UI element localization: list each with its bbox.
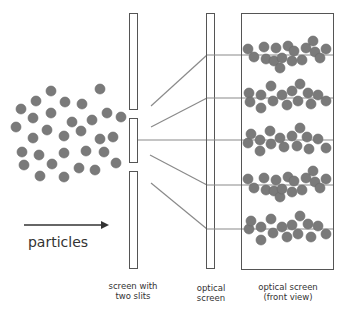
band-particle (268, 96, 278, 106)
band-particle (277, 90, 287, 100)
particle (111, 158, 121, 168)
particle (47, 159, 57, 169)
band-particle (277, 53, 287, 63)
band-particle (249, 183, 259, 193)
band-particle (287, 220, 297, 230)
band-particle (265, 126, 275, 136)
band-particle (306, 99, 316, 109)
band-particle (256, 235, 266, 245)
band-particle (279, 142, 289, 152)
band-particle (245, 97, 255, 107)
particle (11, 122, 21, 132)
band-particle (303, 88, 313, 98)
band-particle (277, 222, 287, 232)
band-particle (289, 46, 299, 56)
arrow-head-icon (101, 221, 109, 229)
band-particle (246, 216, 256, 226)
band-particle (282, 100, 292, 110)
particle (108, 132, 118, 142)
band-particle (259, 173, 269, 183)
band-particle (297, 55, 307, 65)
optical-screen-label-line1: optical (197, 283, 226, 293)
particle (60, 97, 70, 107)
band-particle (259, 42, 269, 52)
particle (67, 117, 77, 127)
band-particle (266, 139, 276, 149)
particle (95, 134, 105, 144)
particle (99, 147, 109, 157)
particle (59, 148, 69, 158)
band-particle (304, 144, 314, 154)
particle (102, 108, 112, 118)
particle (19, 160, 29, 170)
particle (31, 96, 41, 106)
band-particle (321, 143, 331, 153)
particle (28, 133, 38, 143)
band-particle (287, 131, 297, 141)
band-particle (321, 174, 331, 184)
front-view-label-line1: optical screen (258, 282, 318, 292)
path-4 (150, 155, 207, 185)
band-particle (295, 79, 305, 89)
band-particle (287, 187, 297, 197)
particles-label: particles (28, 234, 88, 250)
band-particle (243, 174, 253, 184)
band-particle (266, 214, 276, 224)
particle (76, 126, 86, 136)
band-particle (255, 146, 265, 156)
particle (81, 146, 91, 156)
particle (74, 163, 84, 173)
slit-screen-label-line2: two slits (115, 291, 151, 301)
band-particle (321, 96, 331, 106)
band-particle (313, 134, 323, 144)
band-particle (321, 229, 331, 239)
band-particle (275, 63, 285, 73)
band-particle (321, 44, 331, 54)
particle (59, 131, 69, 141)
path-1 (151, 55, 207, 106)
particle (116, 112, 126, 122)
band-particle (256, 222, 266, 232)
band-particle (277, 184, 287, 194)
band-particle (293, 229, 303, 239)
band-particle (292, 141, 302, 151)
band-particle (256, 90, 266, 100)
path-5 (151, 183, 207, 229)
double-slit-diagram: particles screen with two slits optical … (0, 0, 344, 316)
band-particle (295, 123, 305, 133)
optical-screen-label-line2: screen (197, 293, 225, 303)
particle (35, 171, 45, 181)
slit-screen-bottom-bar (130, 172, 138, 269)
band-particle (302, 132, 312, 142)
band-particle (289, 176, 299, 186)
particle (87, 115, 97, 125)
band-particle (315, 183, 325, 193)
band-particle (293, 96, 303, 106)
front-view-label-line2: (front view) (263, 292, 312, 302)
band-particle (271, 43, 281, 53)
interference-band-4 (243, 166, 331, 202)
diagram-canvas: particles screen with two slits optical … (0, 0, 344, 316)
band-particle (249, 52, 259, 62)
interference-band-5 (244, 211, 331, 245)
band-particle (268, 228, 278, 238)
particle (28, 113, 38, 123)
band-particle (308, 166, 318, 176)
band-particle (271, 175, 281, 185)
particle (17, 147, 27, 157)
band-particle (255, 135, 265, 145)
band-particle (266, 81, 276, 91)
band-particle (295, 211, 305, 221)
particle (46, 108, 56, 118)
band-particle (282, 232, 292, 242)
particle (59, 172, 69, 182)
source-particle-cloud (11, 84, 126, 182)
particle (95, 84, 105, 94)
band-particle (287, 86, 297, 96)
path-2 (151, 98, 207, 127)
band-particle (313, 221, 323, 231)
band-particle (243, 138, 253, 148)
band-particle (244, 88, 254, 98)
particle (16, 104, 26, 114)
direction-arrow (24, 221, 109, 229)
